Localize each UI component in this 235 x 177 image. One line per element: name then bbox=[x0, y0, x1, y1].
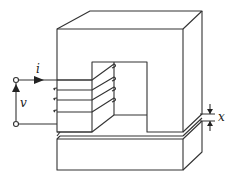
coil-turn bbox=[57, 64, 116, 80]
gap-label: x bbox=[218, 110, 225, 124]
coil bbox=[54, 64, 116, 132]
core-right-face bbox=[183, 11, 202, 132]
current-label: i bbox=[36, 62, 40, 76]
window-depth bbox=[114, 62, 147, 115]
terminal-top bbox=[14, 78, 19, 83]
magnetic-circuit-diagram: i v x bbox=[0, 0, 235, 177]
coil-turn bbox=[54, 77, 116, 90]
terminal-bottom bbox=[14, 122, 19, 127]
gap-arrow-down-icon bbox=[207, 109, 213, 114]
voltage-arrow-icon bbox=[12, 84, 20, 92]
gap-arrow-up-icon bbox=[207, 121, 213, 126]
upper-core bbox=[57, 11, 202, 132]
core-top-face bbox=[57, 11, 202, 29]
bar-right-face bbox=[183, 121, 202, 170]
bar-front-face bbox=[57, 139, 183, 170]
lower-bar bbox=[57, 121, 202, 170]
air-gap bbox=[57, 118, 202, 136]
current-arrow-icon bbox=[34, 76, 44, 84]
voltage-label: v bbox=[20, 96, 27, 110]
coil-turn bbox=[54, 87, 116, 100]
